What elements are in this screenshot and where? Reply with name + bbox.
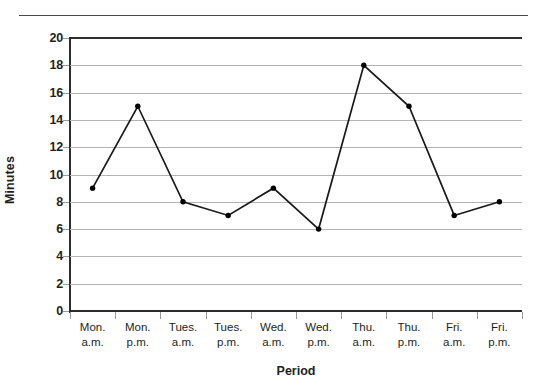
gridline	[70, 120, 522, 121]
x-tick-label-line: a.m.	[428, 335, 480, 350]
x-tick-label-line: a.m.	[338, 335, 390, 350]
x-tick-label: Wed.a.m.	[247, 320, 299, 349]
x-tick-mark	[296, 312, 297, 319]
x-tick-label: Mon.a.m.	[67, 320, 119, 349]
line-chart-figure: 20181614121086420 Mon.a.m.Mon.p.m.Tues.a…	[0, 0, 543, 391]
x-tick-label-line: Thu.	[338, 320, 390, 335]
y-tick-label: 8	[37, 195, 63, 209]
data-point	[90, 185, 95, 190]
y-tick-mark	[63, 120, 69, 121]
y-tick-label: 14	[37, 113, 63, 127]
y-tick-mark	[63, 65, 69, 66]
x-tick-mark	[477, 312, 478, 319]
y-tick-label-wrap: 0	[30, 304, 63, 318]
y-tick-mark	[63, 38, 69, 39]
x-tick-mark	[251, 312, 252, 319]
x-tick-label: Mon.p.m.	[112, 320, 164, 349]
y-tick-mark	[63, 284, 69, 285]
x-tick-label-line: Fri.	[428, 320, 480, 335]
x-tick-label: Fri.p.m.	[473, 320, 525, 349]
y-tick-label-wrap: 12	[30, 140, 63, 154]
y-tick-label: 10	[37, 168, 63, 182]
y-tick-label-wrap: 20	[30, 31, 63, 45]
x-tick-label-line: Wed.	[293, 320, 345, 335]
y-tick-label-wrap: 8	[30, 195, 63, 209]
x-tick-label-line: Mon.	[112, 320, 164, 335]
y-tick-label-wrap: 10	[30, 168, 63, 182]
y-tick-label-wrap: 18	[30, 58, 63, 72]
x-tick-label-line: p.m.	[293, 335, 345, 350]
x-tick-label: Tues.a.m.	[157, 320, 209, 349]
x-tick-label-line: Wed.	[247, 320, 299, 335]
y-tick-mark	[63, 229, 69, 230]
x-tick-mark	[522, 312, 523, 319]
y-tick-label: 20	[37, 31, 63, 45]
y-tick-mark	[63, 256, 69, 257]
y-tick-label-wrap: 14	[30, 113, 63, 127]
x-tick-mark	[70, 312, 71, 319]
x-tick-mark	[160, 312, 161, 319]
gridline	[70, 256, 522, 257]
y-tick-mark	[63, 311, 69, 312]
y-tick-label-wrap: 16	[30, 86, 63, 100]
y-tick-mark	[63, 202, 69, 203]
gridline	[70, 229, 522, 230]
x-tick-mark	[432, 312, 433, 319]
x-tick-label-line: p.m.	[473, 335, 525, 350]
x-tick-mark	[206, 312, 207, 319]
y-tick-label: 12	[37, 140, 63, 154]
data-point	[452, 213, 457, 218]
x-tick-label-line: a.m.	[247, 335, 299, 350]
x-tick-label: Thu.a.m.	[338, 320, 390, 349]
x-tick-mark	[115, 312, 116, 319]
y-tick-mark	[63, 93, 69, 94]
y-tick-label: 2	[37, 277, 63, 291]
y-tick-label-wrap: 4	[30, 249, 63, 263]
y-tick-label-wrap: 2	[30, 277, 63, 291]
data-point	[271, 185, 276, 190]
y-tick-label: 18	[37, 58, 63, 72]
x-tick-mark	[341, 312, 342, 319]
x-tick-label-line: Thu.	[383, 320, 435, 335]
y-tick-mark	[63, 147, 69, 148]
x-tick-label-line: p.m.	[383, 335, 435, 350]
x-tick-label-line: p.m.	[112, 335, 164, 350]
x-tick-label: Fri.a.m.	[428, 320, 480, 349]
gridline	[70, 147, 522, 148]
y-tick-label-wrap: 6	[30, 222, 63, 236]
y-tick-label: 16	[37, 86, 63, 100]
y-axis-title: Minutes	[3, 140, 17, 220]
x-tick-label-line: a.m.	[67, 335, 119, 350]
x-tick-label-line: p.m.	[202, 335, 254, 350]
x-tick-label-line: Fri.	[473, 320, 525, 335]
x-tick-mark	[386, 312, 387, 319]
plot-top-border	[69, 37, 522, 39]
x-tick-label-line: Tues.	[157, 320, 209, 335]
x-tick-label-line: a.m.	[157, 335, 209, 350]
y-tick-mark	[63, 175, 69, 176]
y-tick-label: 4	[37, 249, 63, 263]
gridline	[70, 175, 522, 176]
gridline	[70, 284, 522, 285]
y-tick-label: 6	[37, 222, 63, 236]
x-axis-title: Period	[246, 364, 346, 378]
x-tick-label: Tues.p.m.	[202, 320, 254, 349]
x-tick-label-line: Mon.	[67, 320, 119, 335]
x-tick-label: Wed.p.m.	[293, 320, 345, 349]
gridline	[70, 65, 522, 66]
data-point	[406, 104, 411, 109]
x-tick-label: Thu.p.m.	[383, 320, 435, 349]
data-point	[135, 104, 140, 109]
data-point	[226, 213, 231, 218]
y-tick-label: 0	[37, 304, 63, 318]
gridline	[70, 93, 522, 94]
x-tick-label-line: Tues.	[202, 320, 254, 335]
gridline	[70, 202, 522, 203]
